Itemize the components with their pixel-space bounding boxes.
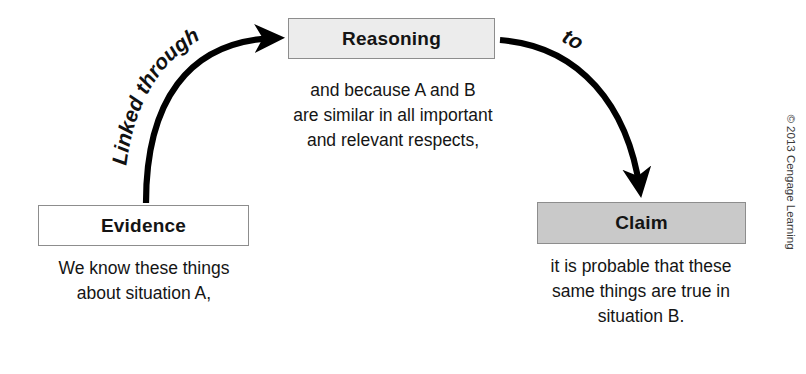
node-reasoning-caption: and because A and B are similar in all i… [262, 78, 524, 153]
node-claim: Claim [537, 202, 746, 244]
node-claim-caption-line-2: same things are true in [512, 279, 770, 304]
connector-label-linked-through: Linked through [107, 23, 202, 166]
node-evidence-caption: We know these things about situation A, [16, 256, 272, 306]
copyright-notice-wrapper: © 2013 Cengage Learning [788, 182, 806, 342]
node-claim-caption-line-3: situation B. [512, 304, 770, 329]
node-evidence-caption-line-2: about situation A, [16, 281, 272, 306]
node-reasoning-label: Reasoning [342, 28, 441, 50]
node-evidence-label: Evidence [101, 215, 186, 237]
node-reasoning-caption-line-1: and because A and B [262, 78, 524, 103]
node-claim-label: Claim [615, 212, 668, 234]
connector-label-to: to [559, 24, 588, 54]
node-reasoning: Reasoning [288, 18, 495, 59]
node-reasoning-caption-line-2: are similar in all important [262, 103, 524, 128]
node-claim-caption-line-1: it is probable that these [512, 254, 770, 279]
node-evidence: Evidence [38, 205, 249, 246]
node-claim-caption: it is probable that these same things ar… [512, 254, 770, 329]
node-reasoning-caption-line-3: and relevant respects, [262, 128, 524, 153]
node-evidence-caption-line-1: We know these things [16, 256, 272, 281]
diagram-canvas: Linked through to Evidence We know these… [0, 0, 806, 374]
connector-evidence-to-reasoning [146, 38, 277, 203]
copyright-notice: © 2013 Cengage Learning [785, 114, 797, 249]
